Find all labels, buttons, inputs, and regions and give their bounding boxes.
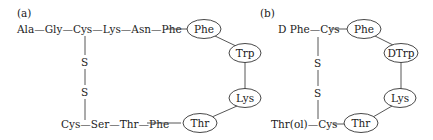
svg-text:DTrp: DTrp	[387, 47, 414, 59]
residue-b-thr: Thr	[344, 114, 378, 133]
residue-a-trp: Trp	[229, 44, 261, 63]
peptide-structure-diagram: (a) Ala—Gly—Cys—Lys—Asn—Phe S S Cys—Ser—…	[0, 0, 433, 140]
bond-a-lys-thr	[212, 106, 237, 117]
residue-b-dtrp: DTrp	[384, 44, 418, 63]
panel-a-top-chain: Ala—Gly—Cys—Lys—Asn—Phe	[16, 23, 182, 35]
panel-a-bottom-chain: Cys—Ser—Thr—Phe	[61, 118, 169, 130]
residue-a-phe: Phe	[187, 20, 221, 39]
panel-b: (b) D Phe—Cys S S Thr(ol)—Cys Phe DTrp L…	[260, 7, 418, 133]
svg-text:Lys: Lys	[391, 92, 409, 104]
svg-text:Phe: Phe	[194, 23, 214, 35]
svg-text:Trp: Trp	[236, 47, 255, 59]
panel-a: (a) Ala—Gly—Cys—Lys—Asn—Phe S S Cys—Ser—…	[16, 7, 261, 133]
panel-b-label: (b)	[260, 7, 275, 19]
residue-a-thr: Thr	[183, 114, 217, 133]
svg-text:Lys: Lys	[236, 92, 254, 104]
svg-text:Thr: Thr	[352, 117, 372, 129]
sulfur-b-2: S	[314, 87, 321, 99]
residue-b-lys: Lys	[384, 89, 416, 108]
bond-a-phe-trp	[215, 36, 236, 46]
panel-b-bottom-chain: Thr(ol)—Cys	[271, 118, 338, 130]
sulfur-a-1: S	[81, 56, 88, 68]
bond-b-phe-dtrp	[375, 36, 393, 45]
panel-b-top-chain: D Phe—Cys	[278, 23, 340, 35]
svg-text:Thr: Thr	[191, 117, 211, 129]
panel-a-label: (a)	[17, 7, 31, 19]
residue-a-lys: Lys	[229, 89, 261, 108]
residue-b-phe: Phe	[347, 20, 381, 39]
bond-b-lys-thr	[373, 106, 392, 117]
sulfur-b-1: S	[314, 57, 321, 69]
sulfur-a-2: S	[81, 86, 88, 98]
svg-text:Phe: Phe	[354, 23, 374, 35]
